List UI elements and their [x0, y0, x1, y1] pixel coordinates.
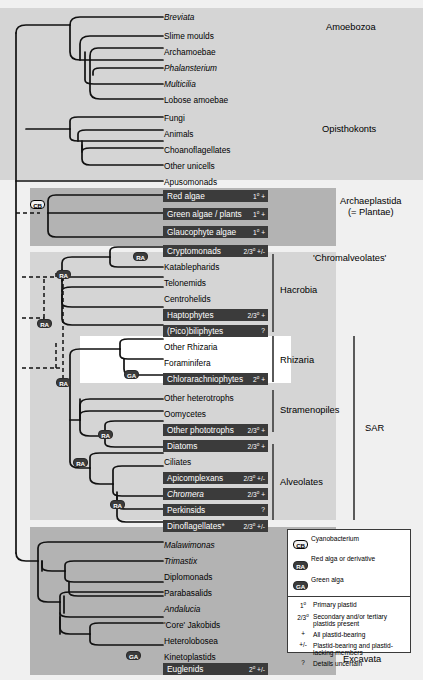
taxon-row: Oomycetes	[163, 408, 206, 420]
taxon-row: Dinoflagellates*2/3o +/-	[163, 520, 268, 532]
legend-badge-cb-icon: CB	[293, 540, 308, 549]
archaeplastida-line-1: Archaeplastida	[340, 196, 402, 207]
taxon-row: Ciliates	[163, 456, 191, 468]
taxon-name: Apusomonads	[164, 176, 217, 188]
taxon-name: Kinetoplastids	[164, 651, 216, 663]
plastid-annotation: 2/3o +	[248, 423, 265, 437]
plastid-annotation: ?	[261, 325, 265, 337]
taxon-row: Katablepharids	[163, 261, 219, 273]
taxon-row: Foraminifera	[163, 357, 211, 369]
legend-organisms: CBCyanobacteriumRARed alga or derivative…	[288, 530, 410, 597]
taxon-name: Apicomplexans	[167, 472, 223, 484]
taxon-row: Slime moulds	[163, 30, 214, 42]
taxon-row: Andalucia	[163, 603, 200, 615]
legend-symbol: +	[293, 630, 313, 638]
taxon-name: Telonemids	[164, 277, 206, 289]
legend-symbol: +/-	[293, 641, 313, 649]
legend-symbol-row: 1oPrimary plastid	[293, 600, 406, 610]
taxon-name: Choanoflagellates	[164, 144, 230, 156]
legend-badge: GA	[293, 575, 311, 593]
taxon-row: Multicilia	[163, 78, 196, 90]
taxon-row: Other Rhizaria	[163, 341, 218, 353]
taxon-name: Heterolobosea	[164, 635, 218, 647]
node-ra-stramenopiles: RA	[73, 458, 88, 467]
taxon-name: Cryptomonads	[167, 245, 221, 257]
taxon-row: Cryptomonads2/3o +/-	[163, 245, 268, 257]
plastid-annotation: 2/3o +/-	[244, 519, 265, 533]
legend-organism-row: RARed alga or derivative	[293, 555, 406, 573]
taxon-row: Perkinsids?	[163, 504, 268, 516]
plastid-annotation: 1o +	[253, 225, 265, 239]
taxon-name: Archamoebae	[164, 46, 216, 58]
plastid-annotation: ?	[261, 504, 265, 516]
legend-box: CBCyanobacteriumRARed alga or derivative…	[287, 529, 411, 653]
taxon-name: Parabasalids	[164, 587, 212, 599]
taxon-row: Trimastix	[163, 555, 197, 567]
taxon-row: Green algae / plants1o +	[163, 208, 268, 220]
group-label-chromalveolates: 'Chromalveolates'	[313, 253, 386, 263]
taxon-name: Other Rhizaria	[164, 341, 218, 353]
rule-hacrobia	[272, 254, 274, 332]
rule-sar	[353, 336, 355, 520]
plastid-annotation: 2/3o +	[248, 439, 265, 453]
taxon-row: Archamoebae	[163, 46, 216, 58]
taxon-name: Other phototrophs	[167, 424, 234, 436]
taxon-name: Breviata	[164, 11, 194, 23]
taxon-row: Lobose amoebae	[163, 94, 228, 106]
legend-symbol-row: 2/3oSecondary and/or tertiary plastids p…	[293, 612, 406, 628]
node-ra-stramenopile-phototrophs: RA	[98, 430, 113, 439]
legend-symbol: 1o	[293, 600, 313, 610]
taxon-name: Perkinsids	[167, 504, 205, 516]
taxon-name: Malawimonas	[164, 539, 215, 551]
plastid-annotation: 2o +	[253, 372, 265, 386]
taxon-name: Other heterotrophs	[164, 392, 234, 404]
taxon-name: Katablepharids	[164, 261, 219, 273]
taxon-row: Red algae1o +	[163, 190, 268, 202]
taxon-row: Diatoms2/3o +	[163, 440, 268, 452]
taxon-name: Chromera	[167, 488, 204, 500]
taxon-row: Euglenids2o +/-	[163, 663, 268, 675]
legend-organism-text: Cyanobacterium	[311, 534, 359, 542]
legend-symbol-row: +/-Plastid-bearing and plastid-lacking m…	[293, 641, 406, 657]
node-ra-hacrobia: RA	[56, 270, 71, 279]
taxon-row: (Pico)biliphytes?	[163, 325, 268, 337]
taxon-row: Apusomonads	[163, 176, 217, 188]
legend-symbol-text: Secondary and/or tertiary plastids prese…	[313, 612, 406, 628]
taxon-row: Haptophytes2/3o +	[163, 309, 268, 321]
node-ga-euglenids: GA	[126, 651, 141, 660]
plastid-annotation: 2/3o +	[248, 308, 265, 322]
taxon-row: Glaucophyte algae1o +	[163, 226, 268, 238]
plastid-annotation: 2/3o +/-	[244, 244, 265, 258]
taxon-row: Apicomplexans2/3o +/-	[163, 472, 268, 484]
group-label-alveolates: Alveolates	[280, 477, 323, 487]
taxon-name: Foraminifera	[164, 357, 211, 369]
taxon-row: Malawimonas	[163, 539, 215, 551]
node-ga-chlorarachniophytes: GA	[124, 370, 139, 379]
phylogeny-figure: CB RA RA RA GA RA RA RA RA GA Amoebozoa …	[0, 0, 423, 689]
group-label-rhizaria: Rhizaria	[280, 355, 314, 365]
taxon-row: Breviata	[163, 11, 194, 23]
legend-symbol: ?	[293, 659, 313, 667]
legend-organism-row: CBCyanobacterium	[293, 534, 406, 552]
taxon-name: Centrohelids	[164, 293, 211, 305]
taxon-name: Diplomonads	[164, 571, 212, 583]
legend-symbols: 1oPrimary plastid2/3oSecondary and/or te…	[288, 597, 410, 670]
plastid-annotation: 2/3o +/-	[244, 471, 265, 485]
taxon-name: Oomycetes	[164, 408, 206, 420]
taxon-name: Chlorarachniophytes	[167, 373, 243, 385]
taxon-row: Chromera2/3o +	[163, 488, 268, 500]
taxon-row: Centrohelids	[163, 293, 211, 305]
taxon-name: Ciliates	[164, 456, 191, 468]
taxon-name: Glaucophyte algae	[167, 226, 236, 238]
taxon-name: Red algae	[167, 190, 205, 202]
taxon-row: Telonemids	[163, 277, 206, 289]
node-ra-alveolates: RA	[110, 500, 125, 509]
taxon-name: Andalucia	[164, 603, 200, 615]
taxon-row: Chlorarachniophytes2o +	[163, 373, 268, 385]
legend-symbol: 2/3o	[293, 612, 313, 622]
group-label-archaeplastida: Archaeplastida (= Plantae)	[340, 196, 402, 218]
taxon-name: Fungi	[164, 112, 185, 124]
taxon-name: Other unicells	[164, 160, 215, 172]
node-ra-cryptomonads: RA	[133, 252, 148, 261]
taxon-name: Haptophytes	[167, 309, 214, 321]
